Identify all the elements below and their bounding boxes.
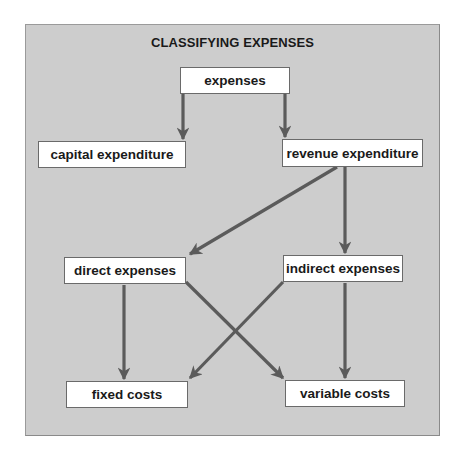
node-direct-expenses-label: direct expenses (74, 263, 176, 278)
node-variable-costs-label: variable costs (300, 386, 390, 401)
node-expenses-label: expenses (204, 73, 266, 88)
node-capital-expenditure: capital expenditure (38, 141, 186, 168)
node-capital-expenditure-label: capital expenditure (50, 147, 173, 162)
diagram-title: CLASSIFYING EXPENSES (25, 35, 440, 50)
node-fixed-costs-label: fixed costs (92, 387, 163, 402)
node-revenue-expenditure-label: revenue expenditure (286, 146, 418, 161)
node-direct-expenses: direct expenses (64, 257, 186, 284)
node-expenses: expenses (180, 67, 290, 94)
node-indirect-expenses: indirect expenses (283, 255, 403, 282)
node-fixed-costs: fixed costs (66, 381, 188, 408)
node-revenue-expenditure: revenue expenditure (282, 139, 423, 167)
node-variable-costs: variable costs (285, 380, 405, 407)
node-indirect-expenses-label: indirect expenses (286, 261, 400, 276)
